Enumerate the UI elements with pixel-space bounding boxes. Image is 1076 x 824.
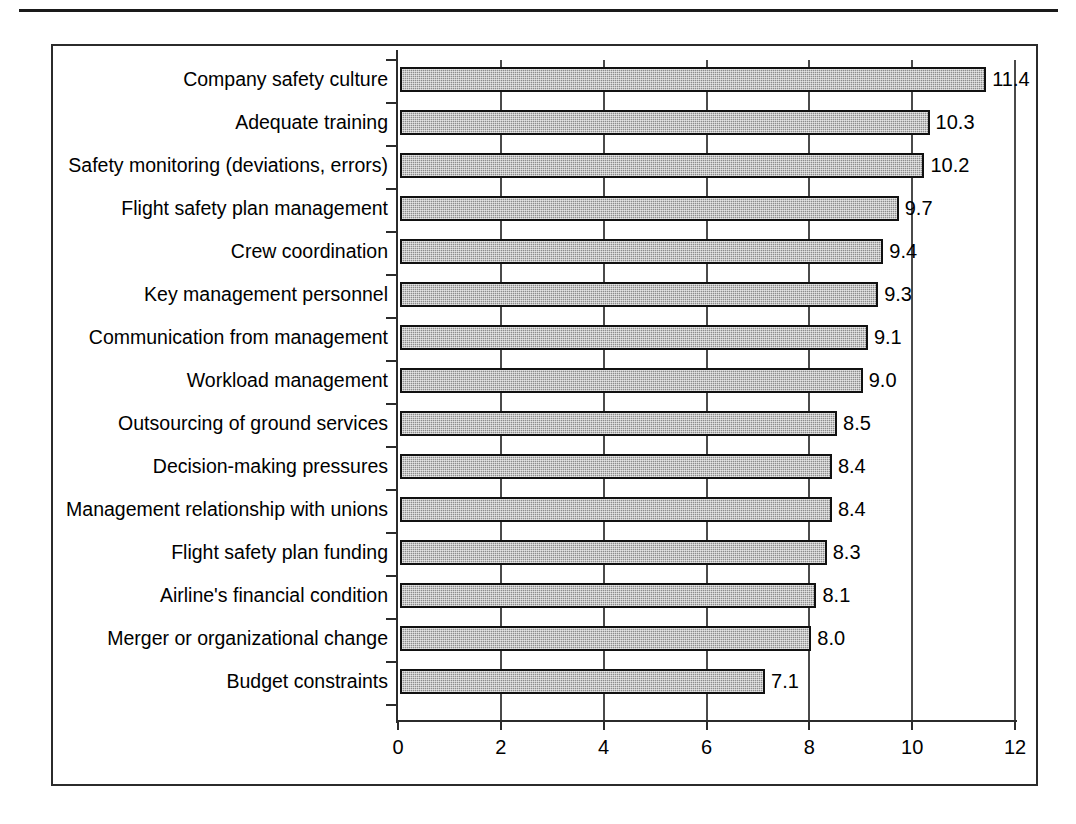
bar-row: Key management personnel9.3 <box>398 275 1015 318</box>
bar-row: Decision-making pressures8.4 <box>398 447 1015 490</box>
y-tick <box>386 618 397 620</box>
category-label: Decision-making pressures <box>153 454 388 479</box>
x-tick-label: 8 <box>804 736 815 759</box>
bar <box>400 669 765 694</box>
x-tick-2 <box>500 720 502 730</box>
category-label: Safety monitoring (deviations, errors) <box>68 153 388 178</box>
bar-row: Communication from management9.1 <box>398 318 1015 361</box>
category-label: Adequate training <box>235 110 388 135</box>
y-tick <box>386 532 397 534</box>
bar <box>400 368 863 393</box>
category-label: Flight safety plan management <box>121 196 388 221</box>
x-tick-label: 12 <box>1004 736 1026 759</box>
bar-value-label: 11.4 <box>992 67 1029 92</box>
bar <box>400 540 827 565</box>
bar-row: Management relationship with unions8.4 <box>398 490 1015 533</box>
y-tick <box>386 59 397 61</box>
bar-value-label: 9.7 <box>905 196 933 221</box>
bar-value-label: 8.1 <box>822 583 850 608</box>
category-label: Budget constraints <box>226 669 388 694</box>
bar <box>400 411 837 436</box>
bar-row: Adequate training10.3 <box>398 103 1015 146</box>
bar <box>400 497 832 522</box>
bar <box>400 583 816 608</box>
y-tick <box>386 489 397 491</box>
bar-value-label: 9.4 <box>889 239 917 264</box>
bar-value-label: 8.0 <box>817 626 845 651</box>
bar-value-label: 10.2 <box>930 153 969 178</box>
category-label: Workload management <box>187 368 388 393</box>
y-tick <box>386 145 397 147</box>
bar <box>400 626 811 651</box>
bar-value-label: 9.1 <box>874 325 902 350</box>
x-tick-4 <box>603 720 605 730</box>
bar <box>400 454 832 479</box>
bar-value-label: 10.3 <box>936 110 975 135</box>
category-label: Merger or organizational change <box>107 626 388 651</box>
bar <box>400 110 930 135</box>
bar-value-label: 8.3 <box>833 540 861 565</box>
bar-value-label: 8.5 <box>843 411 871 436</box>
bar <box>400 239 883 264</box>
y-tick <box>386 704 397 706</box>
category-label: Company safety culture <box>183 67 388 92</box>
bar-row: Workload management9.0 <box>398 361 1015 404</box>
bar-row: Airline's financial condition8.1 <box>398 576 1015 619</box>
y-tick <box>386 317 397 319</box>
bar <box>400 153 924 178</box>
bar <box>400 325 868 350</box>
x-tick-12 <box>1014 720 1016 730</box>
y-tick <box>386 403 397 405</box>
x-tick-label: 0 <box>392 736 403 759</box>
x-tick-6 <box>706 720 708 730</box>
x-tick-label: 2 <box>495 736 506 759</box>
y-tick <box>386 575 397 577</box>
x-tick-label: 6 <box>701 736 712 759</box>
category-label: Outsourcing of ground services <box>118 411 388 436</box>
page-horizontal-rule <box>19 9 1058 12</box>
bar-row: Company safety culture11.4 <box>398 60 1015 103</box>
chart-frame: Company safety culture11.4Adequate train… <box>51 44 1038 786</box>
bar-row: Merger or organizational change8.0 <box>398 619 1015 662</box>
bar-row: Flight safety plan funding8.3 <box>398 533 1015 576</box>
bar-row: Budget constraints7.1 <box>398 662 1015 705</box>
y-tick <box>386 188 397 190</box>
category-label: Communication from management <box>89 325 388 350</box>
y-tick <box>386 360 397 362</box>
category-label: Management relationship with unions <box>66 497 388 522</box>
x-tick-label: 4 <box>598 736 609 759</box>
category-label: Crew coordination <box>231 239 388 264</box>
y-tick <box>386 446 397 448</box>
category-label: Flight safety plan funding <box>171 540 388 565</box>
bar-value-label: 9.0 <box>869 368 897 393</box>
y-tick <box>386 231 397 233</box>
category-label: Key management personnel <box>144 282 388 307</box>
bar-value-label: 8.4 <box>838 497 866 522</box>
x-tick-0 <box>397 720 399 730</box>
y-tick <box>386 661 397 663</box>
bar-row: Flight safety plan management9.7 <box>398 189 1015 232</box>
bar <box>400 67 986 92</box>
x-tick-label: 10 <box>901 736 923 759</box>
bar <box>400 282 878 307</box>
plot-area: Company safety culture11.4Adequate train… <box>398 60 1015 720</box>
bar-value-label: 8.4 <box>838 454 866 479</box>
bar-row: Safety monitoring (deviations, errors)10… <box>398 146 1015 189</box>
x-tick-8 <box>808 720 810 730</box>
x-tick-10 <box>911 720 913 730</box>
bar-value-label: 7.1 <box>771 669 799 694</box>
y-tick <box>386 102 397 104</box>
bar-value-label: 9.3 <box>884 282 912 307</box>
bar <box>400 196 899 221</box>
category-label: Airline's financial condition <box>160 583 388 608</box>
y-tick <box>386 274 397 276</box>
bar-row: Crew coordination9.4 <box>398 232 1015 275</box>
bar-row: Outsourcing of ground services8.5 <box>398 404 1015 447</box>
